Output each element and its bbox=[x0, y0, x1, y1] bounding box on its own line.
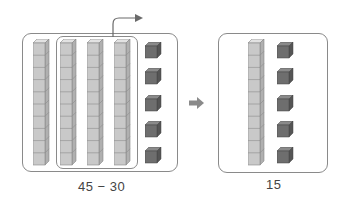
ten-rod-icon bbox=[114, 39, 132, 167]
unit-cube-icon bbox=[145, 42, 163, 60]
ten-rod-icon bbox=[60, 39, 78, 167]
unit-cube-icon bbox=[145, 147, 163, 165]
unit-cube-icon bbox=[145, 95, 163, 113]
ten-rod-icon bbox=[87, 39, 105, 167]
expression-label: 45 − 30 bbox=[78, 179, 125, 194]
ten-rod-icon bbox=[33, 39, 51, 167]
unit-cube-icon bbox=[277, 68, 295, 86]
take-away-arrow-icon bbox=[108, 10, 148, 38]
right-panel-15 bbox=[218, 33, 328, 173]
unit-cube-icon bbox=[277, 95, 295, 113]
unit-cube-icon bbox=[277, 147, 295, 165]
unit-cube-icon bbox=[145, 121, 163, 139]
result-label: 15 bbox=[266, 177, 281, 192]
ten-rod-icon bbox=[248, 39, 266, 167]
unit-cube-icon bbox=[277, 42, 295, 60]
unit-cube-icon bbox=[277, 121, 295, 139]
right-arrow-icon bbox=[189, 97, 205, 109]
unit-cube-icon bbox=[145, 68, 163, 86]
